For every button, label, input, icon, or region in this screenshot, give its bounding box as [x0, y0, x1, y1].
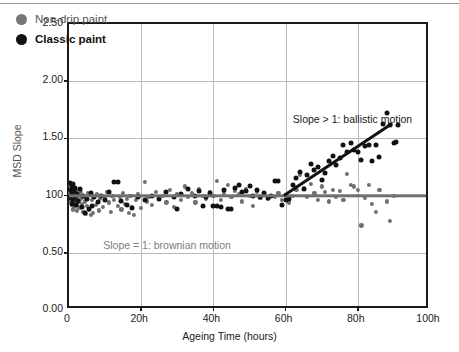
y-tick-mark [64, 195, 69, 197]
data-point [143, 180, 147, 184]
data-point [374, 210, 378, 214]
data-point [226, 183, 230, 187]
y-tick-label: 2.00 [43, 73, 63, 85]
data-point [355, 150, 360, 155]
chart-screenshot: MSD Slope 2.502.001.501000.500.00 Slope … [0, 0, 459, 352]
data-point [319, 177, 324, 182]
data-point [126, 211, 130, 215]
data-point [215, 179, 219, 183]
y-tick-mark [64, 138, 69, 140]
x-tick-label: 100h [416, 312, 439, 324]
data-point [341, 143, 346, 148]
legend-item: Classic paint [16, 29, 107, 49]
data-point [377, 154, 382, 159]
data-point [196, 189, 201, 194]
data-point [90, 203, 95, 208]
reference-line-brownian [69, 194, 426, 197]
data-point [95, 200, 100, 205]
gridline-vertical [286, 24, 287, 306]
data-point [366, 143, 371, 148]
data-point [327, 199, 331, 203]
data-point [200, 203, 205, 208]
y-tick-mark [64, 252, 69, 254]
data-point [388, 219, 392, 223]
data-point [119, 207, 123, 211]
plot-area: Slope > 1: ballistic motionSlope = 1: br… [67, 22, 428, 308]
legend-item-label: Non-drip paint [35, 13, 107, 25]
x-tick-label: 0 [64, 312, 70, 324]
data-point [103, 198, 108, 203]
legend-marker-icon [16, 34, 27, 45]
y-axis-tick-labels: 2.502.001.501000.500.00 [18, 0, 63, 352]
trendline-ballistic [283, 122, 393, 197]
gridline-horizontal [69, 81, 426, 82]
data-point [112, 198, 116, 202]
x-axis-title: Ageing Time (hours) [0, 330, 459, 342]
gridline-vertical [213, 24, 214, 306]
data-point [356, 188, 360, 192]
gridline-vertical [141, 24, 142, 306]
data-point [338, 189, 342, 193]
data-point [251, 204, 255, 208]
legend-item: Non-drip paint [16, 9, 107, 29]
data-point [124, 202, 129, 207]
data-point [142, 198, 147, 203]
data-point [359, 158, 364, 163]
data-point [308, 161, 313, 166]
x-tick-mark [357, 306, 359, 311]
data-point [393, 139, 398, 144]
data-point [385, 199, 389, 203]
data-point [119, 199, 124, 204]
data-point [320, 184, 324, 188]
data-point [367, 183, 371, 187]
data-point [97, 208, 101, 212]
data-point [108, 210, 112, 214]
data-point [130, 206, 135, 211]
y-tick-label: 100 [45, 188, 63, 200]
data-point [179, 198, 183, 202]
data-point [91, 211, 95, 215]
data-point [79, 205, 84, 210]
data-point [115, 179, 120, 184]
data-point [229, 207, 234, 212]
y-tick-mark [64, 80, 69, 82]
data-point [294, 176, 299, 181]
x-tick-mark [140, 306, 142, 311]
chart-annotation: Slope = 1: brownian motion [103, 239, 231, 251]
data-point [345, 172, 349, 176]
chart-legend: Non-drip paintClassic paint [16, 9, 107, 49]
data-point [132, 213, 136, 217]
data-point [330, 153, 335, 158]
data-point [370, 159, 375, 164]
data-point [236, 183, 241, 188]
legend-marker-icon [16, 14, 27, 25]
data-point [193, 200, 197, 204]
data-point [298, 169, 303, 174]
data-point [301, 186, 306, 191]
data-point [150, 203, 154, 207]
data-point [370, 202, 374, 206]
data-point [309, 182, 313, 186]
y-tick-label: 1.50 [43, 130, 63, 142]
data-point [139, 206, 143, 210]
data-point [186, 186, 191, 191]
data-point [276, 178, 281, 183]
data-point [279, 202, 284, 207]
gridline-vertical [358, 24, 359, 306]
data-point [373, 143, 378, 148]
x-tick-mark [285, 306, 287, 311]
x-tick-mark [213, 306, 215, 311]
data-point [175, 207, 180, 212]
data-point [222, 187, 227, 192]
data-point [348, 140, 353, 145]
y-tick-label: 0.50 [43, 245, 63, 257]
x-tick-label: 40h [203, 312, 221, 324]
x-tick-label: 20h [130, 312, 148, 324]
legend-item-label: Classic paint [35, 33, 106, 45]
chart-annotation: Slope > 1: ballistic motion [293, 113, 412, 125]
x-tick-label: 60h [275, 312, 293, 324]
x-axis-tick-labels: 020h40h60h80h100h [0, 312, 459, 328]
data-point [76, 199, 81, 204]
data-point [243, 189, 248, 194]
data-point [254, 187, 259, 192]
